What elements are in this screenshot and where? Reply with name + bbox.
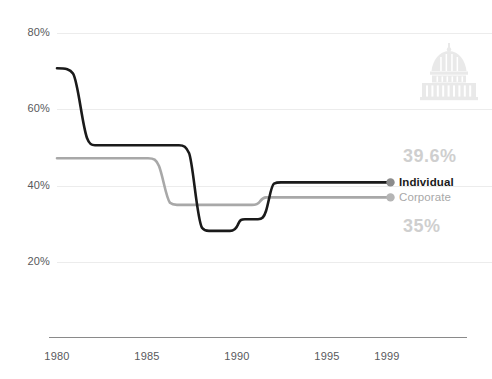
y-tick-label-80: 80% — [8, 26, 50, 38]
y-tick-label-40: 40% — [8, 179, 50, 191]
x-tick-label-1995: 1995 — [297, 350, 357, 362]
series-line-individual — [57, 68, 388, 231]
series-label-corporate: Corporate — [399, 191, 451, 203]
x-tick-label-1980: 1980 — [27, 350, 87, 362]
callout-individual-value: 39.6% — [403, 146, 457, 167]
x-tick-label-1999: 1999 — [357, 350, 417, 362]
x-tick-label-1985: 1985 — [117, 350, 177, 362]
x-tick-label-1990: 1990 — [207, 350, 267, 362]
y-tick-label-60: 60% — [8, 102, 50, 114]
callout-corporate-value: 35% — [403, 216, 441, 237]
tax-rates-line-chart: 80% 60% 40% 20% 1980 1985 1990 1995 1999… — [0, 0, 492, 379]
endpoint-dot-corporate — [386, 193, 394, 201]
chart-plot-area — [0, 0, 492, 379]
y-tick-label-20: 20% — [8, 255, 50, 267]
endpoint-dot-individual — [386, 178, 394, 186]
series-label-individual: Individual — [399, 176, 454, 188]
